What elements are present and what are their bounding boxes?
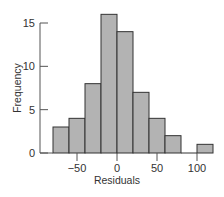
y-tick-label: 5	[29, 104, 35, 116]
x-axis-label: Residuals	[94, 174, 140, 186]
x-tick-label: 100	[188, 162, 206, 174]
histogram-bar	[85, 84, 101, 153]
histogram-bar	[53, 127, 69, 153]
histogram-bars	[53, 14, 213, 153]
x-tick-label: 50	[151, 162, 163, 174]
histogram-bar	[165, 136, 181, 153]
histogram-bar	[197, 144, 213, 153]
x-tick-label: −50	[68, 162, 87, 174]
histogram-bar	[69, 118, 85, 153]
y-axis-label: Frequency	[11, 62, 23, 112]
histogram-bar	[117, 32, 133, 153]
x-axis-ticks: −50050100	[68, 153, 207, 174]
histogram-bar	[149, 118, 165, 153]
histogram-bar	[101, 14, 117, 153]
y-tick-label: 0	[29, 147, 35, 159]
x-tick-label: 0	[114, 162, 120, 174]
y-axis-ticks: 051015	[23, 17, 48, 159]
y-tick-label: 15	[23, 17, 35, 29]
histogram-chart: 051015 −50050100 Residuals Frequency	[0, 0, 224, 197]
histogram-bar	[133, 92, 149, 153]
y-tick-label: 10	[23, 60, 35, 72]
